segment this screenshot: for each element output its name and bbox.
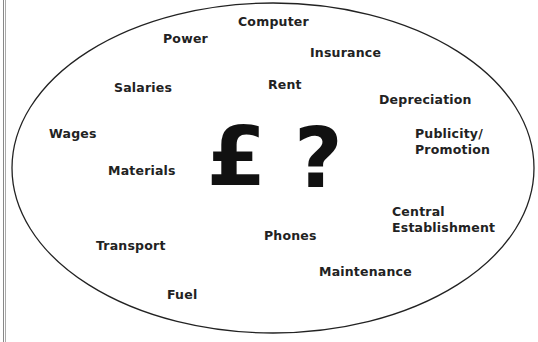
label-insurance: Insurance [310, 45, 381, 60]
label-materials: Materials [108, 163, 176, 178]
label-promotion: Promotion [415, 142, 490, 157]
label-wages: Wages [49, 126, 97, 141]
costs-ellipse [0, 0, 538, 342]
label-salaries: Salaries [114, 80, 172, 95]
label-rent: Rent [268, 77, 302, 92]
label-publicity: Publicity/ [415, 126, 483, 141]
label-transport: Transport [96, 238, 166, 253]
label-central: Central [392, 204, 445, 219]
label-phones: Phones [264, 228, 317, 243]
label-establishment: Establishment [392, 220, 495, 235]
question-mark-icon: ? [294, 116, 343, 200]
label-fuel: Fuel [167, 287, 197, 302]
label-computer: Computer [238, 14, 309, 29]
label-power: Power [163, 31, 208, 46]
pound-sign-icon: £ [207, 116, 267, 198]
label-maintenance: Maintenance [319, 264, 412, 279]
label-depreciation: Depreciation [379, 92, 472, 107]
